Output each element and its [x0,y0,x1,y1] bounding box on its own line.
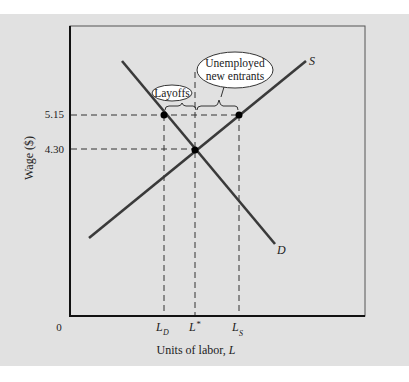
unemployed-brace [197,100,238,110]
unemployed-callout-pointer [221,87,224,97]
x-tick-ls-sub: S [239,329,243,338]
point-ld [161,112,168,119]
x-axis-label: Units of labor, L [157,343,236,357]
point-ls [236,112,243,119]
y-tick-430: 4.30 [45,143,65,155]
x-tick-lstar: L * [188,319,201,334]
x-axis-label-text: Units of labor, [157,343,229,357]
origin-label: 0 [56,321,62,333]
y-tick-515: 5.15 [45,108,65,120]
unemployed-label-line1: Unemployed [205,57,265,70]
x-tick-ls: L S [231,320,243,338]
x-tick-ld-main: L [155,320,163,334]
x-axis-label-var: L [228,343,236,357]
point-equilibrium [192,147,199,154]
x-tick-lstar-sup: * [196,319,201,329]
layoffs-brace [165,103,196,110]
x-tick-ld: L D [155,320,169,337]
y-axis-label: Wage ($) [22,136,36,180]
labor-market-chart: Layoffs Unemployed new entrants S D 5.15… [0,0,409,382]
layoffs-label: Layoffs [154,87,190,100]
x-tick-ls-main: L [231,320,239,334]
x-tick-lstar-main: L [188,320,196,334]
supply-label: S [309,54,315,68]
demand-label: D [276,243,286,257]
unemployed-label-line2: new entrants [206,70,265,82]
x-tick-ld-sub: D [162,328,169,337]
guide-lines [71,72,239,315]
demand-curve [122,61,275,244]
